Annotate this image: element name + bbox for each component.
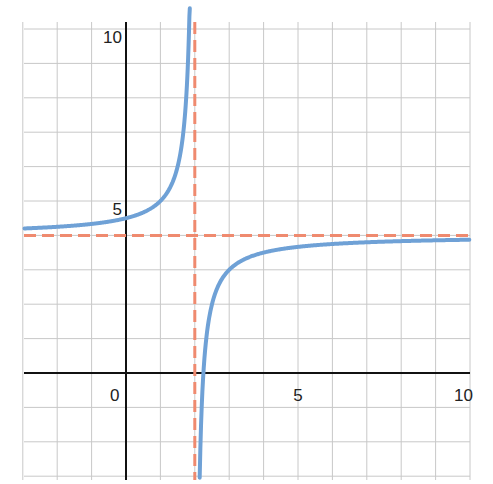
asymptotes xyxy=(24,22,470,480)
y-tick-label: 10 xyxy=(103,28,122,47)
grid-lines xyxy=(23,22,470,480)
x-tick-label: 0 xyxy=(110,386,119,405)
y-tick-label: 5 xyxy=(113,200,122,219)
tick-labels: 0510510 xyxy=(103,28,473,405)
x-tick-label: 5 xyxy=(293,386,302,405)
x-tick-label: 10 xyxy=(454,386,473,405)
function-graph: 0510510 xyxy=(0,0,493,484)
axes xyxy=(24,22,470,480)
